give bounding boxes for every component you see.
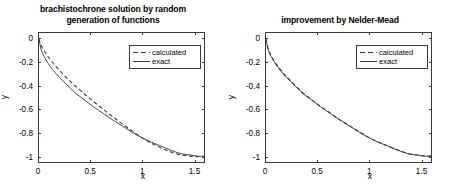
x-tick-mark (90, 32, 91, 35)
y-tick-mark (202, 62, 205, 63)
x-tick-mark (265, 160, 266, 163)
y-tick-label: -0.6 (0, 105, 33, 114)
x-tick-mark (195, 160, 196, 163)
chart-title-right: improvement by Nelder-Mead (227, 15, 453, 26)
legend-right: calculated exact (356, 45, 428, 69)
y-tick-mark (429, 157, 432, 158)
x-tick-mark (422, 160, 423, 163)
x-axis-title-left: x (141, 171, 145, 181)
y-tick-label: 0 (227, 33, 260, 42)
y-tick-label: -0.6 (227, 105, 260, 114)
x-tick-mark (38, 160, 39, 163)
figure-canvas: brachistochrone solution by random gener… (0, 0, 453, 189)
x-tick-label: 0.5 (311, 167, 322, 176)
y-tick-mark (38, 133, 41, 134)
x-tick-mark (90, 160, 91, 163)
y-tick-mark (38, 62, 41, 63)
legend-item-exact: exact (132, 57, 197, 66)
legend-label-exact: exact (152, 57, 170, 66)
x-tick-mark (142, 160, 143, 163)
x-tick-mark (369, 160, 370, 163)
x-tick-mark (317, 160, 318, 163)
solid-line-icon (132, 57, 151, 66)
chart-title-left-line1: brachistochrone solution by random (0, 4, 226, 15)
chart-title-left-line2: generation of functions (0, 15, 226, 26)
y-tick-label: -0.8 (0, 129, 33, 138)
y-tick-mark (202, 133, 205, 134)
x-tick-label: 0.5 (84, 167, 95, 176)
y-tick-label: -0.4 (227, 81, 260, 90)
legend-left: calculated exact (129, 45, 201, 69)
y-tick-label: -0.2 (0, 57, 33, 66)
y-tick-label: 0 (0, 33, 33, 42)
x-tick-mark (38, 32, 39, 35)
y-tick-mark (202, 86, 205, 87)
x-tick-mark (195, 32, 196, 35)
y-tick-mark (265, 157, 268, 158)
y-tick-mark (429, 86, 432, 87)
x-tick-mark (317, 32, 318, 35)
chart-panel-left: brachistochrone solution by random gener… (0, 0, 226, 189)
x-tick-mark (369, 32, 370, 35)
x-tick-mark (422, 32, 423, 35)
chart-title-left: brachistochrone solution by random gener… (0, 4, 226, 25)
x-tick-mark (265, 32, 266, 35)
y-tick-mark (38, 38, 41, 39)
dashed-line-icon (132, 48, 151, 57)
y-tick-mark (429, 62, 432, 63)
y-tick-label: -0.2 (227, 57, 260, 66)
y-tick-mark (429, 109, 432, 110)
dashed-line-icon (359, 48, 378, 57)
x-axis-title-right: x (368, 171, 372, 181)
legend-label-calculated: calculated (379, 48, 413, 57)
y-axis-title-right: y (226, 95, 236, 99)
legend-label-calculated: calculated (152, 48, 186, 57)
y-tick-mark (265, 133, 268, 134)
y-tick-label: -1 (227, 153, 260, 162)
y-tick-mark (265, 109, 268, 110)
y-tick-mark (202, 157, 205, 158)
chart-panel-right: improvement by Nelder-Mead 00.511.50-0.2… (227, 0, 453, 189)
y-tick-mark (38, 86, 41, 87)
y-tick-mark (202, 109, 205, 110)
legend-item-calculated: calculated (132, 48, 197, 57)
y-axis-title-left: y (0, 95, 9, 99)
x-tick-label: 0 (263, 167, 268, 176)
y-tick-mark (429, 133, 432, 134)
solid-line-icon (359, 57, 378, 66)
y-tick-mark (38, 109, 41, 110)
y-tick-mark (429, 38, 432, 39)
x-tick-label: 1.5 (189, 167, 200, 176)
y-tick-label: -0.8 (227, 129, 260, 138)
chart-title-right-line1: improvement by Nelder-Mead (227, 15, 453, 26)
y-tick-mark (265, 62, 268, 63)
y-tick-mark (265, 38, 268, 39)
y-tick-mark (38, 157, 41, 158)
x-tick-mark (142, 32, 143, 35)
legend-item-exact: exact (359, 57, 424, 66)
legend-label-exact: exact (379, 57, 397, 66)
x-tick-label: 0 (36, 167, 41, 176)
y-tick-label: -0.4 (0, 81, 33, 90)
y-tick-mark (202, 38, 205, 39)
y-tick-label: -1 (0, 153, 33, 162)
x-tick-label: 1.5 (416, 167, 427, 176)
legend-item-calculated: calculated (359, 48, 424, 57)
y-tick-mark (265, 86, 268, 87)
